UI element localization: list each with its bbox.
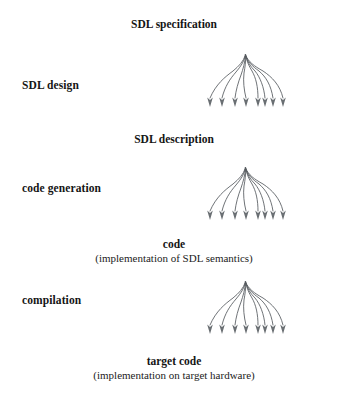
stage-label-sdl-design: SDL design (22, 79, 79, 91)
tree-diagram-3 (199, 280, 293, 342)
tree-diagram-2 (199, 166, 293, 228)
tree-svg (199, 280, 293, 342)
tree-branches (210, 55, 283, 98)
tree-arrowheads (207, 98, 286, 108)
caption-target-code: (implementation on target hardware) (0, 369, 348, 381)
diagram-canvas: SDL specification SDL design (0, 0, 348, 401)
tree-arrowheads (207, 211, 286, 221)
label-sdl-specification: SDL specification (0, 18, 348, 30)
label-sdl-description: SDL description (0, 133, 348, 145)
tree-arrowheads (207, 325, 286, 335)
tree-branches (210, 168, 283, 211)
tree-svg (199, 53, 293, 115)
tree-diagram-1 (199, 53, 293, 115)
stage-label-compilation: compilation (22, 294, 81, 306)
tree-branches (210, 282, 283, 325)
label-code: code (0, 238, 348, 250)
label-target-code: target code (0, 355, 348, 367)
tree-svg (199, 166, 293, 228)
caption-code: (implementation of SDL semantics) (0, 252, 348, 264)
stage-label-code-generation: code generation (22, 182, 101, 194)
